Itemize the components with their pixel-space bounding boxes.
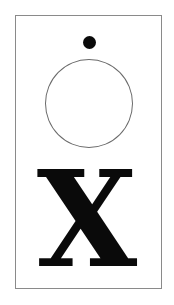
letter-glyph: X [2,150,173,290]
circle-icon [45,59,133,148]
dot-icon [83,36,96,49]
